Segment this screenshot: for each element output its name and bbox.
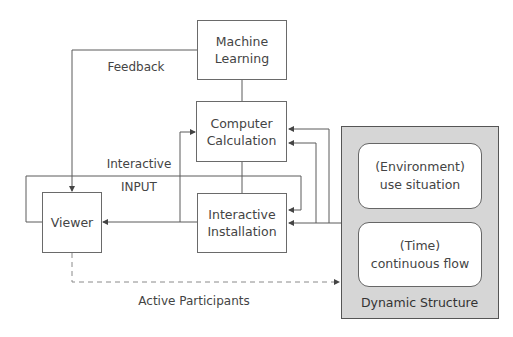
interactive-label: Interactive bbox=[107, 157, 172, 172]
environment-node: (Environment) use situation bbox=[358, 143, 482, 209]
computer-calculation-node: Computer Calculation bbox=[196, 101, 287, 162]
environment-label-line1: (Environment) bbox=[375, 158, 465, 176]
machine-learning-node: Machine Learning bbox=[197, 20, 287, 80]
viewer-node: Viewer bbox=[42, 192, 102, 253]
time-label-line1: (Time) bbox=[371, 237, 469, 255]
machine-learning-label-line2: Learning bbox=[215, 50, 269, 67]
interactive-installation-node: Interactive Installation bbox=[197, 193, 287, 253]
environment-label-line2: use situation bbox=[375, 176, 465, 194]
feedback-label: Feedback bbox=[107, 60, 164, 75]
interactive-installation-label-line2: Installation bbox=[207, 223, 276, 240]
dynamic-structure-group: (Environment) use situation (Time) conti… bbox=[341, 126, 499, 319]
dynamic-structure-title: Dynamic Structure bbox=[342, 295, 497, 310]
machine-learning-label-line1: Machine bbox=[215, 33, 269, 50]
diagram-canvas: Machine Learning Computer Calculation In… bbox=[0, 0, 513, 337]
input-label: INPUT bbox=[121, 180, 157, 195]
computer-calculation-label-line1: Computer bbox=[207, 115, 277, 132]
interactive-installation-label-line1: Interactive bbox=[207, 206, 276, 223]
active-participants-connector bbox=[72, 253, 339, 282]
ds-to-cc-connector-2 bbox=[289, 143, 329, 223]
computer-calculation-label-line2: Calculation bbox=[207, 132, 277, 149]
time-node: (Time) continuous flow bbox=[358, 222, 482, 287]
time-label-line2: continuous flow bbox=[371, 255, 469, 273]
viewer-label: Viewer bbox=[51, 214, 94, 231]
input-to-cc-connector bbox=[180, 132, 195, 222]
active-participants-label: Active Participants bbox=[138, 294, 249, 309]
